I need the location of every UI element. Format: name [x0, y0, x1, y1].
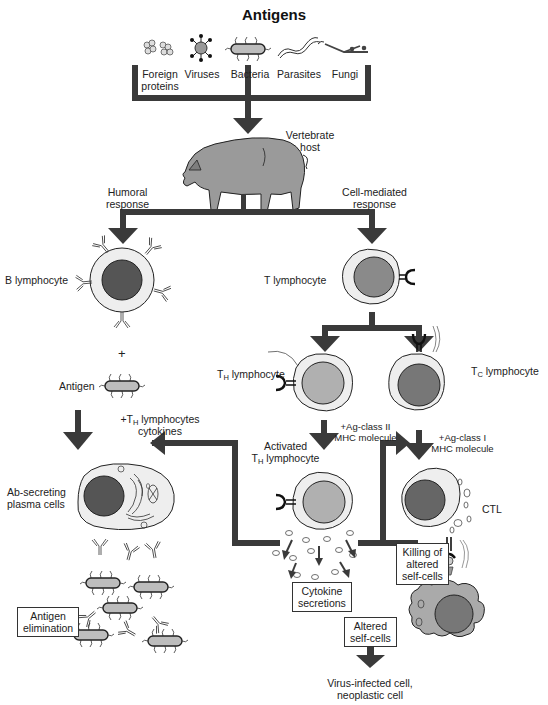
- humoral-response-label: Humoralresponse: [100, 186, 155, 210]
- ctl-label: CTL: [482, 503, 502, 515]
- foreign-protein-icon: [144, 40, 173, 55]
- virus-icon: [190, 34, 212, 62]
- diagram-title: Antigens: [0, 6, 548, 23]
- antigen-label-fungi: Fungi: [325, 68, 365, 80]
- antigen-bacterium-icon: [99, 374, 145, 398]
- antigen-label: Antigen: [59, 380, 95, 392]
- antibody-bacteria-cluster: [68, 539, 188, 653]
- b-lymphocyte-cell: [75, 235, 171, 328]
- altered-self-cell: [409, 580, 484, 636]
- immune-response-diagram: [0, 0, 548, 705]
- antigen-label-viruses: Viruses: [182, 68, 222, 80]
- plus-sign: +: [118, 348, 126, 360]
- th-help-cytokines-label: +TH lymphocytescytokines: [110, 413, 210, 437]
- b-lymphocyte-label: B lymphocyte: [5, 274, 68, 286]
- class2-mhc-label: +Ag-class IIMHC molecule: [328, 421, 403, 443]
- class1-mhc-label: +Ag-class IMHC molecule: [425, 432, 500, 454]
- fungus-icon: [325, 44, 368, 52]
- antigen-label-bacteria: Bacteria: [226, 68, 274, 80]
- plasma-cell: [78, 464, 174, 530]
- host-label: Vertebratehost: [280, 129, 340, 153]
- th-lymphocyte-label: TH lymphocyte: [217, 368, 285, 380]
- activated-th-label: ActivatedTH lymphocyte: [248, 440, 323, 464]
- antigen-label-parasites: Parasites: [274, 68, 324, 80]
- altered-self-cells-box: Alteredself-cells: [344, 617, 397, 647]
- killing-altered-self-cells-box: Killing ofalteredself-cells: [396, 543, 449, 585]
- parasite-icon: [278, 38, 324, 58]
- activated-th-cell: [276, 472, 352, 529]
- bacterium-icon: [225, 37, 271, 61]
- th-lymphocyte-cell: [268, 351, 353, 411]
- tc-lymphocyte-label: TC lymphocyte: [471, 365, 539, 377]
- t-lymphocyte-cell: [343, 249, 416, 304]
- antigen-label-foreign-proteins: Foreignproteins: [132, 68, 188, 92]
- cytokine-secretions-box: Cytokinesecretions: [292, 582, 352, 612]
- cell-mediated-response-label: Cell-mediatedresponse: [337, 186, 412, 210]
- plasma-cells-label: Ab-secretingplasma cells: [7, 486, 66, 510]
- antigen-elimination-box: Antigenelimination: [17, 607, 79, 637]
- outcome-label: Virus-infected cell,neoplastic cell: [320, 677, 420, 701]
- t-lymphocyte-label: T lymphocyte: [264, 274, 326, 286]
